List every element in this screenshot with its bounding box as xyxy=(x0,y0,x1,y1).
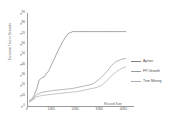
x-tick-label: 0 xyxy=(26,108,28,112)
legend-label: Apriori xyxy=(143,59,153,63)
y-tick-label: 60 xyxy=(22,42,25,45)
series-lines xyxy=(27,13,133,106)
line-chart: Execution Time in Seconds 01020304050607… xyxy=(0,0,176,127)
legend-label: FP-Growth xyxy=(143,69,160,73)
y-tick-label: 40 xyxy=(22,63,25,66)
y-tick-label: 20 xyxy=(22,84,25,87)
legend-label: Tree Mining xyxy=(143,79,161,83)
y-tick-mark xyxy=(21,106,23,107)
y-tick-label: 30 xyxy=(22,73,25,76)
x-tick-mark xyxy=(99,106,100,108)
x-tick-mark xyxy=(51,106,52,108)
y-tick-label: 50 xyxy=(22,53,25,56)
y-tick-mark xyxy=(20,34,22,35)
series-line xyxy=(29,67,125,102)
y-axis-tick-labels: 0102030405060708090 xyxy=(8,13,25,106)
x-tick-label: 2000 xyxy=(72,108,79,112)
y-tick-label: 10 xyxy=(22,94,25,97)
y-tick-mark xyxy=(20,85,22,86)
y-tick-mark xyxy=(20,75,22,76)
y-tick-mark xyxy=(20,13,22,14)
y-tick-mark xyxy=(20,54,22,55)
y-tick-mark xyxy=(20,96,22,97)
legend-item[interactable]: Tree Mining xyxy=(131,76,176,86)
x-tick-mark xyxy=(75,106,76,108)
legend-swatch xyxy=(131,71,141,72)
x-tick-label: 4000 xyxy=(120,108,127,112)
x-axis-line xyxy=(27,106,134,107)
y-tick-label: 90 xyxy=(22,11,25,14)
y-tick-label: 0 xyxy=(23,104,25,107)
y-tick-mark xyxy=(20,65,22,66)
x-tick-label: 1000 xyxy=(47,108,54,112)
y-tick-label: 70 xyxy=(22,32,25,35)
y-tick-label: 80 xyxy=(22,22,25,25)
legend-item[interactable]: Apriori xyxy=(131,56,176,66)
legend-swatch xyxy=(131,61,141,62)
y-tick-mark xyxy=(20,44,22,45)
x-tick-mark xyxy=(123,106,124,108)
plot-area xyxy=(27,13,133,106)
legend-swatch xyxy=(131,81,141,82)
y-tick-mark xyxy=(20,23,22,24)
chart-legend: AprioriFP-GrowthTree Mining xyxy=(131,56,176,86)
x-axis-tick-labels: 01000200030004000 xyxy=(27,108,137,116)
legend-item[interactable]: FP-Growth xyxy=(131,66,176,76)
x-tick-mark xyxy=(27,106,28,108)
x-axis-title: Record Size xyxy=(104,103,122,107)
x-tick-label: 3000 xyxy=(96,108,103,112)
